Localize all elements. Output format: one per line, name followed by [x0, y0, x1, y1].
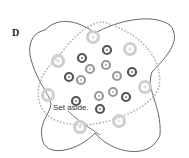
circle-core: [117, 119, 120, 122]
circle-core: [75, 100, 77, 102]
circle-core: [131, 71, 133, 73]
panel-label: D: [12, 27, 19, 38]
circle-core: [46, 93, 49, 96]
circle-group: [43, 32, 151, 133]
outer-boundary-curve: [30, 19, 175, 152]
circle-core: [89, 68, 91, 70]
circle-core: [106, 49, 108, 51]
diagram-canvas: [0, 0, 189, 158]
circle-core: [99, 108, 101, 110]
circle-core: [98, 95, 100, 97]
circle-core: [128, 47, 131, 50]
circle-core: [105, 64, 107, 66]
set-aside-annotation: Set aside.: [53, 103, 89, 112]
circle-core: [116, 75, 118, 77]
circle-core: [68, 76, 70, 78]
circle-core: [78, 125, 81, 128]
circle-core: [81, 57, 83, 59]
circle-core: [56, 59, 59, 62]
circle-core: [80, 79, 82, 81]
circle-core: [125, 96, 127, 98]
circle-core: [143, 85, 146, 88]
circle-core: [91, 35, 94, 38]
circle-core: [112, 91, 114, 93]
